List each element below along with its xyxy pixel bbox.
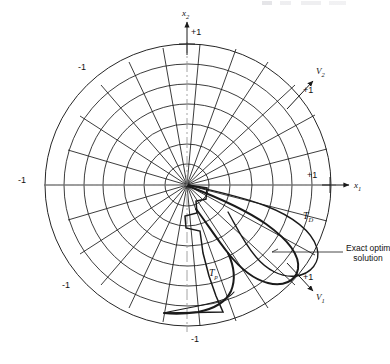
axis-label-x1: x1 xyxy=(354,180,361,192)
exact-optimal-line-2: solution xyxy=(346,254,390,264)
curve-label-tp: Tp xyxy=(209,267,218,280)
tick-label-x1-plus-one: +1 xyxy=(307,170,317,180)
axis-label-v1: V1 xyxy=(316,292,325,304)
diagram-canvas xyxy=(0,0,390,364)
tick-label-x2-minus-one: -1 xyxy=(191,334,199,344)
polar-phase-plane-figure: x2 +1 x1 +1 V2 +1 V1 +1 -1 -1 -1 -1 TD T… xyxy=(0,0,390,364)
tick-label-v2-plus-one: +1 xyxy=(303,85,313,95)
curve-exact-optimal-lower xyxy=(164,253,234,314)
tick-label-x2-plus-one: +1 xyxy=(191,27,201,37)
tick-label-x1-minus-one: -1 xyxy=(18,175,26,185)
tick-label-v1-plus-one: +1 xyxy=(303,272,313,282)
curve-tp-closing xyxy=(164,292,234,313)
tick-label-v1-minus-one: -1 xyxy=(78,62,86,72)
axis-label-v2: V2 xyxy=(316,66,325,78)
curve-label-td: TD xyxy=(303,210,313,223)
axis-label-x2: x2 xyxy=(182,8,189,20)
exact-optimal-annotation: Exact optimal solution xyxy=(346,244,390,264)
tick-label-v2-minus-one: -1 xyxy=(62,280,70,290)
exact-optimal-leader-tick xyxy=(272,249,278,252)
